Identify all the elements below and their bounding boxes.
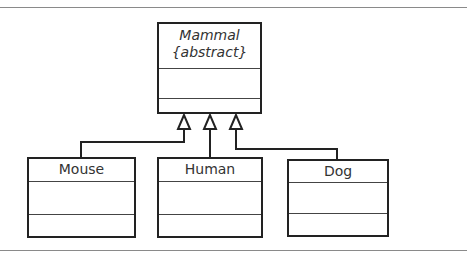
class-mammal[interactable]: Mammal {abstract} bbox=[157, 22, 262, 114]
class-mouse[interactable]: Mouse bbox=[27, 157, 136, 238]
class-dog[interactable]: Dog bbox=[287, 159, 389, 237]
generalization-arrowhead bbox=[178, 115, 190, 129]
attributes-divider bbox=[29, 181, 134, 182]
class-name: Dog bbox=[289, 163, 387, 179]
generalization-arrowhead bbox=[204, 115, 216, 129]
generalization-arrowhead bbox=[230, 115, 242, 129]
class-name: Mammal {abstract} bbox=[159, 27, 260, 61]
class-name-text: Mammal bbox=[159, 27, 260, 44]
operations-divider bbox=[159, 98, 260, 99]
attributes-divider bbox=[159, 68, 260, 69]
operations-divider bbox=[289, 213, 387, 214]
attributes-divider bbox=[289, 182, 387, 183]
operations-divider bbox=[29, 214, 134, 215]
operations-divider bbox=[159, 214, 261, 215]
attributes-divider bbox=[159, 181, 261, 182]
stereotype-text: {abstract} bbox=[159, 44, 260, 61]
class-name: Human bbox=[159, 161, 261, 177]
class-human[interactable]: Human bbox=[157, 157, 263, 238]
class-name: Mouse bbox=[29, 161, 134, 177]
